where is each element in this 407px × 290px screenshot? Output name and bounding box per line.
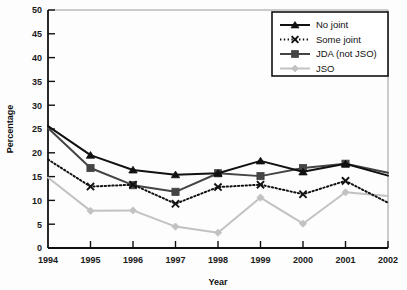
y-axis-title: Percentage [5,105,15,154]
x-tick-label: 1999 [250,255,270,265]
y-tick-label: 25 [32,124,42,134]
legend-label: Some joint [316,34,361,45]
x-tick-label: 1995 [80,255,100,265]
line-chart: 05101520253035404550 1994199519961997199… [0,0,407,290]
chart-legend: No jointSome jointJDA (not JSO)JSO [272,12,388,76]
x-tick-label: 1996 [123,255,143,265]
y-tick-label: 0 [37,243,42,253]
legend-label: JSO [316,63,334,74]
series-line [48,126,388,176]
marker-square [257,173,264,180]
x-tick-label: 2002 [378,255,398,265]
y-tick-label: 5 [37,220,42,230]
marker-square [172,188,179,195]
y-tick-label: 45 [32,29,42,39]
y-tick-label: 35 [32,77,42,87]
data-series-group [48,126,388,236]
x-axis-ticks: 199419951996199719981999200020012002 [38,241,398,265]
x-tick-label: 1997 [165,255,185,265]
y-tick-label: 20 [32,148,42,158]
x-axis-title: Year [208,277,228,287]
legend-label: No joint [316,19,349,30]
x-tick-label: 2001 [335,255,355,265]
y-tick-label: 30 [32,101,42,111]
series-some-joint [48,159,388,207]
series-line [48,128,388,192]
marker-diamond [172,223,179,230]
y-tick-label: 40 [32,53,42,63]
y-tick-label: 15 [32,172,42,182]
legend-label: JDA (not JSO) [316,48,377,59]
marker-diamond [129,207,136,214]
x-tick-label: 1998 [208,255,228,265]
x-tick-label: 2000 [293,255,313,265]
y-tick-label: 10 [32,196,42,206]
series-no-joint [48,126,388,178]
marker-square [87,164,94,171]
marker-square [292,51,299,58]
y-tick-label: 50 [32,5,42,15]
series-jda-not-jso [48,128,388,195]
x-tick-label: 1994 [38,255,58,265]
chart-container: 05101520253035404550 1994199519961997199… [0,0,407,290]
